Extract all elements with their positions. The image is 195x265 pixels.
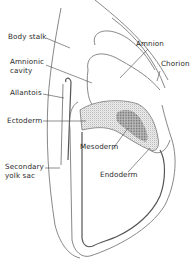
amnion-line (94, 31, 155, 70)
label-amnionic-cavity-1: Amnionic (10, 58, 44, 66)
label-endoderm: Endoderm (100, 171, 138, 179)
label-secondary-yolk-sac-2: yolk sac (5, 172, 35, 180)
leader-body-stalk (46, 38, 70, 48)
label-body-stalk: Body stalk (8, 33, 47, 41)
leader-amnionic-cavity (46, 65, 92, 83)
leader-endoderm (128, 148, 150, 172)
amnion-inner-line (88, 54, 160, 90)
label-chorion: Chorion (161, 60, 190, 68)
label-ectoderm: Ectoderm (7, 117, 42, 125)
label-amnionic-cavity-2: cavity (10, 67, 32, 75)
label-secondary-yolk-sac-1: Secondary (5, 163, 44, 171)
leader-amnion (120, 49, 148, 78)
label-amnion: Amnion (136, 40, 164, 48)
allantois-tube-inner (61, 84, 63, 165)
label-allantois: Allantois (10, 89, 42, 97)
chorion-inner-line (112, 18, 165, 88)
leader-allantois (43, 94, 64, 98)
amnionic-cavity-line (87, 70, 92, 104)
label-mesoderm: Mesoderm (80, 143, 118, 151)
